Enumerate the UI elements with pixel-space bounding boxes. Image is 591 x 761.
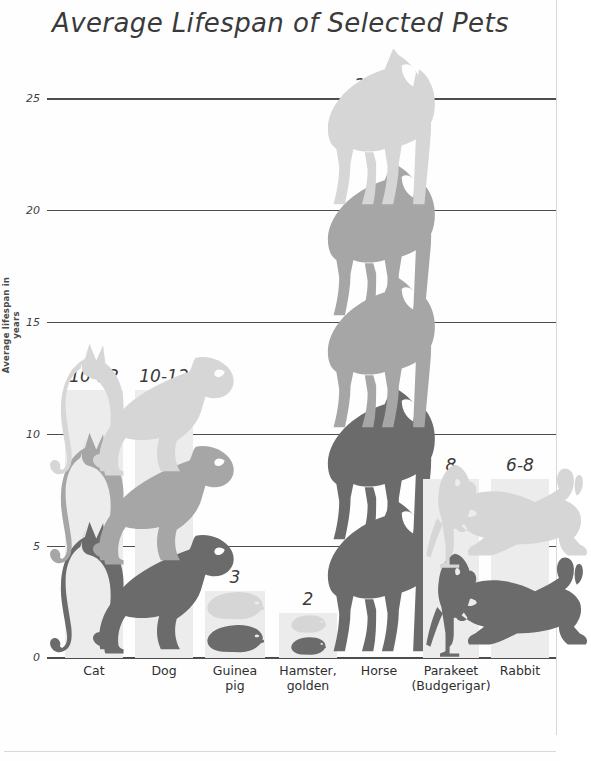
x-tick-line1: Horse (337, 663, 421, 678)
x-tick-line2: (Budgerigar) (411, 678, 491, 693)
bar-guinea-pig: 3 (205, 591, 265, 658)
y-tick-label: 25 (26, 92, 40, 105)
gridline: 15 (47, 322, 556, 323)
gridline: 20 (47, 210, 556, 211)
x-axis-tick-labels: CatDogGuineapigHamster,goldenHorseParake… (47, 663, 556, 723)
y-axis-title: Average lifespan in years (1, 265, 21, 385)
bar-rabbit: 6-8 (491, 479, 549, 658)
bar-horse: 20-25 (349, 99, 409, 658)
x-tick-label-guinea-pig: Guineapig (193, 663, 277, 693)
rabbit-icon (445, 458, 591, 569)
x-tick-line2: pig (193, 678, 277, 693)
chart-title: Average Lifespan of Selected Pets (0, 8, 561, 38)
x-tick-line1: Rabbit (479, 663, 561, 678)
horse-icon (308, 38, 450, 211)
y-tick-label: 20 (26, 204, 40, 217)
x-tick-label-rabbit: Rabbit (479, 663, 561, 678)
x-tick-label-horse: Horse (337, 663, 421, 678)
bar-dog: 10-12 (135, 390, 193, 658)
plot-area: 252015105010-1210-123220-2586-8 (47, 99, 556, 658)
guinea-pig-icon (204, 583, 266, 625)
frame-bottom-border (4, 751, 556, 752)
dog-icon (84, 341, 243, 480)
gridline: 25 (47, 98, 556, 99)
y-tick-label: 15 (26, 315, 40, 328)
x-tick-line1: Guinea (193, 663, 277, 678)
x-tick-line2: golden (267, 678, 349, 693)
